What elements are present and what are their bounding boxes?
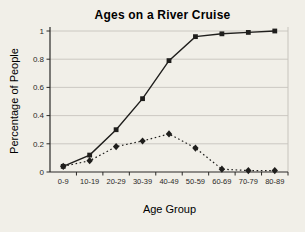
svg-text:40-49: 40-49 [159, 177, 178, 186]
svg-text:70-79: 70-79 [239, 177, 258, 186]
svg-text:0.4: 0.4 [33, 111, 45, 120]
svg-text:20-29: 20-29 [107, 177, 126, 186]
svg-text:10-19: 10-19 [80, 177, 99, 186]
svg-text:0.2: 0.2 [33, 140, 45, 149]
svg-text:50-59: 50-59 [186, 177, 205, 186]
svg-text:30-39: 30-39 [133, 177, 152, 186]
svg-text:0-9: 0-9 [58, 177, 69, 186]
svg-text:60-69: 60-69 [212, 177, 231, 186]
svg-text:0.6: 0.6 [33, 83, 45, 92]
chart-plot-area: 00.20.40.60.810-910-1920-2930-3940-4950-… [0, 0, 305, 232]
svg-text:0.8: 0.8 [33, 55, 45, 64]
svg-text:1: 1 [40, 27, 45, 36]
x-axis-label: Age Group [34, 203, 305, 215]
svg-text:0: 0 [40, 168, 45, 177]
svg-text:80-89: 80-89 [265, 177, 284, 186]
chart-figure: Ages on a River Cruise Percentage of Peo… [0, 0, 305, 232]
